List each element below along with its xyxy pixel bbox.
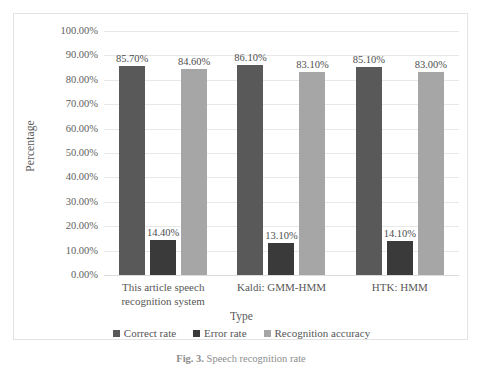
figure-caption-prefix: Fig. 3. [176, 353, 204, 364]
bar-value-label: 86.10% [234, 52, 266, 63]
legend-item[interactable]: Correct rate [113, 327, 176, 339]
bar-groups: 85.70%14.40%84.60%86.10%13.10%83.10%85.1… [104, 31, 459, 275]
legend-label: Error rate [204, 327, 246, 339]
bar-value-label: 85.70% [116, 53, 148, 64]
bar-slot: 84.60% [181, 31, 207, 275]
legend-swatch-icon [264, 330, 271, 337]
figure-frame: Percentage 0.00%10.00%20.00%30.00%40.00%… [13, 13, 468, 340]
y-axis-tick-label: 90.00% [36, 50, 98, 60]
x-axis-tick-label: Kaldi: GMM-HMM [222, 280, 340, 308]
bar-slot: 85.10% [356, 31, 382, 275]
y-axis-tick-label: 60.00% [36, 124, 98, 134]
bar-value-label: 14.10% [384, 228, 416, 239]
bar-slot: 14.10% [387, 31, 413, 275]
legend-label: Correct rate [124, 327, 176, 339]
x-axis-tick-label: This article speech recognition system [104, 280, 222, 308]
legend-swatch-icon [113, 330, 120, 337]
bars-row: 85.70%14.40%84.60% [104, 31, 222, 275]
legend-label: Recognition accuracy [275, 327, 371, 339]
bar-value-label: 14.40% [147, 227, 179, 238]
y-axis-tick-label: 50.00% [36, 148, 98, 158]
bar-value-label: 13.10% [265, 230, 297, 241]
bar[interactable] [237, 65, 263, 275]
x-axis-title: Type [14, 310, 469, 322]
y-axis-tick-label: 0.00% [36, 270, 98, 280]
bar[interactable] [181, 69, 207, 275]
bar[interactable] [268, 243, 294, 275]
y-axis-tick-label: 80.00% [36, 75, 98, 85]
bar[interactable] [418, 72, 444, 275]
y-axis-tick-label: 20.00% [36, 221, 98, 231]
bar-value-label: 85.10% [353, 54, 385, 65]
bar-group: 85.10%14.10%83.00% [341, 31, 459, 275]
bar-value-label: 83.10% [296, 59, 328, 70]
x-axis-tick-labels: This article speech recognition systemKa… [104, 280, 459, 308]
bar-value-label: 84.60% [178, 56, 210, 67]
chart-legend: Correct rateError rateRecognition accura… [14, 327, 469, 339]
bar[interactable] [387, 241, 413, 275]
bar[interactable] [356, 67, 382, 275]
y-axis-title: Percentage [24, 96, 36, 196]
y-axis-tick-label: 30.00% [36, 197, 98, 207]
bar-slot: 83.00% [418, 31, 444, 275]
bar[interactable] [150, 240, 176, 275]
bars-row: 86.10%13.10%83.10% [222, 31, 340, 275]
bar[interactable] [299, 72, 325, 275]
bar-slot: 86.10% [237, 31, 263, 275]
y-axis-tick-label: 70.00% [36, 99, 98, 109]
bar-slot: 85.70% [119, 31, 145, 275]
plot-region: 85.70%14.40%84.60%86.10%13.10%83.10%85.1… [104, 31, 459, 275]
bar-slot: 13.10% [268, 31, 294, 275]
legend-item[interactable]: Error rate [193, 327, 246, 339]
y-axis-tick-labels: 0.00%10.00%20.00%30.00%40.00%50.00%60.00… [36, 14, 98, 275]
legend-swatch-icon [193, 330, 200, 337]
bar-group: 85.70%14.40%84.60% [104, 31, 222, 275]
y-axis-tick-label: 100.00% [36, 26, 98, 36]
x-axis-tick-label: HTK: HMM [341, 280, 459, 308]
y-axis-tick-label: 40.00% [36, 172, 98, 182]
gridline [104, 275, 459, 276]
legend-item[interactable]: Recognition accuracy [264, 327, 371, 339]
bars-row: 85.10%14.10%83.00% [341, 31, 459, 275]
bar-value-label: 83.00% [415, 59, 447, 70]
bar-slot: 14.40% [150, 31, 176, 275]
figure-caption-text: Speech recognition rate [204, 353, 306, 364]
y-axis-tick-label: 10.00% [36, 246, 98, 256]
bar[interactable] [119, 66, 145, 275]
bar-slot: 83.10% [299, 31, 325, 275]
bar-chart: Percentage 0.00%10.00%20.00%30.00%40.00%… [14, 14, 469, 341]
bar-group: 86.10%13.10%83.10% [222, 31, 340, 275]
figure-caption: Fig. 3. Speech recognition rate [0, 353, 482, 364]
